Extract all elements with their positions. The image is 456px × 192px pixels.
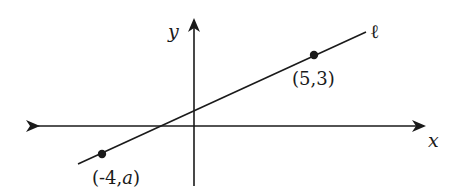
point-5-3-label: (5,3) — [292, 68, 335, 89]
coord-x: -4 — [99, 167, 117, 188]
point-5-3 — [310, 51, 318, 59]
coordinate-plane-diagram: y x ℓ (5,3) (-4,a) — [0, 0, 456, 192]
paren-close: ) — [133, 167, 140, 188]
coord-y: a — [122, 167, 133, 188]
point-neg4-a — [98, 150, 106, 158]
point-neg4-a-label: (-4,a) — [92, 167, 140, 188]
line-l — [78, 32, 366, 164]
line-l-label: ℓ — [370, 20, 379, 42]
x-axis-label: x — [428, 129, 439, 151]
y-axis-label: y — [167, 20, 179, 42]
paren-close: ) — [328, 68, 335, 89]
coord-x: 5 — [299, 68, 310, 89]
paren-open: ( — [292, 68, 299, 89]
paren-open: ( — [92, 167, 99, 188]
coord-y: 3 — [316, 68, 327, 89]
